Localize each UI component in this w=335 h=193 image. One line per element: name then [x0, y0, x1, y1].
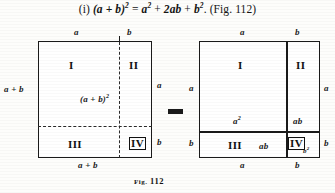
left-fig-region-IV: IV: [129, 137, 146, 150]
left-fig-vertical-divider: [119, 42, 120, 158]
item-number: (i): [79, 3, 90, 15]
figure-caption: Fig. 112: [134, 176, 164, 186]
right-fig-horizontal-divider: [199, 131, 320, 133]
right-fig-right-label-a: a: [324, 83, 329, 93]
right-fig-bottom-label-a: a: [240, 160, 245, 170]
left-fig-area-label-text: (a + b): [80, 94, 106, 104]
right-fig-area-I-exponent: 2: [238, 115, 241, 121]
figure-caption-number: 112: [150, 176, 164, 186]
formula-lhs-exponent: 2: [125, 1, 129, 10]
right-fig-top-label-a: a: [240, 27, 245, 37]
page-title: (i) (a + b)2 = a2 + 2ab + b2. (Fig. 112): [0, 1, 335, 15]
right-fig-region-II: II: [296, 59, 305, 71]
left-fig-top-label-b: b: [127, 27, 132, 37]
right-fig-area-IV-exponent: 2: [307, 146, 310, 151]
equals-sign: [168, 109, 183, 114]
left-fig-region-III: III: [68, 138, 82, 150]
figure-caption-prefix: Fig.: [134, 178, 147, 186]
formula-plus-2: +: [184, 3, 191, 15]
formula-period: .: [204, 3, 207, 15]
right-fig-area-label-III: ab: [259, 141, 268, 151]
left-fig-horizontal-divider: [38, 126, 152, 127]
formula-equals: =: [132, 3, 139, 15]
right-fig-region-I: I: [238, 59, 243, 71]
right-fig-left-label-b: b: [189, 138, 194, 148]
right-fig-area-label-II: ab: [293, 116, 302, 126]
left-fig-right-label-b: b: [157, 137, 162, 147]
formula-plus-1: +: [154, 3, 161, 15]
right-fig-area-label-I: a2: [233, 115, 241, 126]
figure-page: (i) (a + b)2 = a2 + 2ab + b2. (Fig. 112)…: [0, 0, 335, 193]
right-fig-area-label-IV: b2: [303, 146, 309, 155]
left-fig-region-I: I: [69, 59, 74, 71]
formula-term-2: 2ab: [164, 3, 182, 15]
left-fig-left-label: a + b: [4, 84, 24, 94]
left-fig-bottom-label: a + b: [78, 160, 98, 170]
right-fig-right-label-b: b: [324, 138, 329, 148]
right-fig-region-III: III: [228, 139, 242, 151]
left-fig-top-label-a: a: [74, 27, 79, 37]
right-fig-top-label-b: b: [295, 27, 300, 37]
left-fig-right-label-a: a: [157, 80, 162, 90]
right-fig-left-label-a: a: [189, 83, 194, 93]
left-fig-area-label: (a + b)2: [80, 93, 109, 104]
left-fig-area-label-exponent: 2: [106, 93, 109, 99]
figure-reference: (Fig. 112): [210, 3, 257, 15]
right-fig-bottom-label-b: b: [295, 160, 300, 170]
formula-lhs: (a + b): [93, 3, 125, 15]
left-fig-region-II: II: [129, 59, 138, 71]
formula-term-1-exponent: 2: [147, 1, 151, 10]
